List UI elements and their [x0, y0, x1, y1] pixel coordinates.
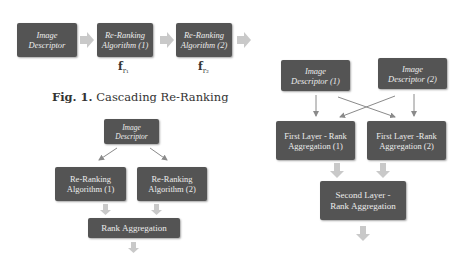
fig3-image-descriptor-2-label: Image Descriptor (2) [388, 64, 437, 84]
fig1-reranking-1-label: Re-Ranking Algorithm (1) [102, 30, 149, 50]
fig3-image-descriptor-1-label: Image Descriptor (1) [291, 66, 340, 86]
fig3-first-layer-2-label: First Layer -Rank Aggregation (2) [376, 131, 436, 151]
fig2-rank-aggregation-label: Rank Aggregation [101, 223, 167, 233]
fig1-image-descriptor-label: Image Descriptor [29, 30, 66, 50]
caption-prefix: Fig. 1. [52, 90, 93, 104]
right-block-arrow-1 [80, 32, 94, 48]
fig2-image-descriptor-box: Image Descriptor [104, 119, 159, 144]
fig3-first-layer-1-box: First Layer - Rank Aggregation (1) [276, 121, 355, 160]
fig3-image-descriptor-1-box: Image Descriptor (1) [281, 60, 350, 91]
fig3-second-layer-label: Second Layer - Rank Aggregation [330, 190, 396, 212]
fig1-reranking-1-box: Re-Ranking Algorithm (1) [97, 23, 153, 57]
fig1-caption: Fig. 1. Cascading Re-Ranking [52, 90, 229, 104]
fig3-image-descriptor-2-box: Image Descriptor (2) [378, 58, 447, 89]
fig1-reranking-2-label: Re-Ranking Algorithm (2) [181, 30, 228, 50]
fig2-reranking-2-box: Re-Ranking Algorithm (2) [137, 167, 207, 201]
fig2-reranking-1-label: Re-Ranking Algorithm (1) [67, 174, 114, 194]
f-sub: r₁ [123, 67, 129, 75]
right-block-arrow-2 [160, 32, 174, 48]
fig1-image-descriptor-box: Image Descriptor [17, 23, 77, 57]
fig3-first-layer-1-label: First Layer - Rank Aggregation (1) [284, 131, 347, 151]
fig1-reranking-2-box: Re-Ranking Algorithm (2) [176, 23, 232, 57]
right-block-arrow-3 [237, 32, 251, 48]
f-sub: r₂ [203, 67, 209, 75]
fig2-rank-aggregation-box: Rank Aggregation [88, 218, 180, 238]
fig3-second-layer-box: Second Layer - Rank Aggregation [320, 181, 406, 220]
fig2-image-descriptor-label: Image Descriptor [115, 123, 148, 141]
fig2-reranking-1-box: Re-Ranking Algorithm (1) [55, 167, 126, 201]
fig1-function-label-1: fr₁ [118, 60, 129, 75]
fig2-reranking-2-label: Re-Ranking Algorithm (2) [148, 174, 195, 194]
caption-text: Cascading Re-Ranking [96, 90, 228, 104]
fig1-function-label-2: fr₂ [198, 60, 209, 75]
fig3-first-layer-2-box: First Layer -Rank Aggregation (2) [367, 121, 446, 160]
